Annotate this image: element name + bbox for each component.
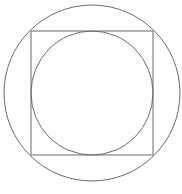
- geometry-diagram: [0, 0, 182, 194]
- square: [31, 31, 153, 155]
- inner-circle: [31, 31, 153, 155]
